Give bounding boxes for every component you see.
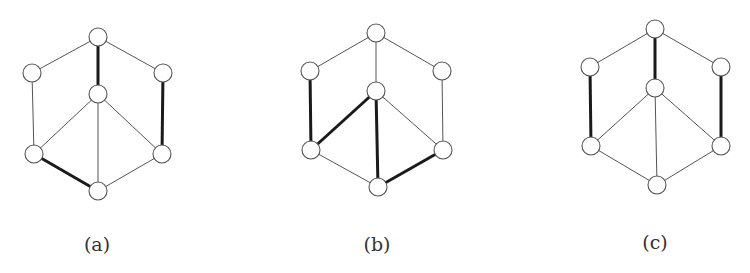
edge-lower-right-bottom — [98, 154, 162, 191]
edge-upper-left-lower-left-bold — [590, 67, 591, 146]
node-upper-right — [433, 62, 451, 80]
node-lower-right — [712, 137, 730, 155]
edge-center-lower-right — [376, 91, 443, 150]
panel-c — [581, 20, 730, 194]
node-center — [646, 79, 664, 97]
node-upper-left — [581, 58, 599, 76]
node-bottom — [89, 182, 107, 200]
caption-c: (c) — [642, 231, 667, 253]
edge-lower-right-bottom-bold — [378, 150, 443, 187]
edge-upper-right-lower-right — [442, 71, 443, 150]
edge-center-lower-left — [34, 94, 98, 154]
node-lower-left — [302, 141, 320, 159]
node-lower-right — [434, 141, 452, 159]
edge-center-lower-left — [591, 88, 655, 146]
node-upper-left — [23, 64, 41, 82]
edge-lower-left-bottom-bold — [34, 154, 98, 191]
node-center — [89, 85, 107, 103]
edge-center-lower-left-bold — [311, 91, 376, 150]
panel-a — [23, 28, 172, 200]
edge-top-upper-right — [98, 37, 163, 73]
node-top — [89, 28, 107, 46]
node-upper-right — [154, 64, 172, 82]
node-lower-left — [582, 137, 600, 155]
edge-upper-right-lower-right-bold — [162, 73, 163, 154]
edge-top-upper-right — [376, 33, 442, 71]
edge-center-bottom — [655, 88, 657, 185]
node-bottom — [369, 178, 387, 196]
edge-top-upper-left — [590, 29, 655, 67]
edge-lower-right-bottom — [657, 146, 721, 185]
edge-top-upper-left — [32, 37, 98, 73]
edge-lower-left-bottom — [311, 150, 378, 187]
caption-a: (a) — [84, 233, 110, 255]
node-upper-right — [712, 58, 730, 76]
caption-b: (b) — [364, 233, 391, 255]
panel-b — [301, 24, 452, 196]
node-top — [367, 24, 385, 42]
edge-lower-left-bottom — [591, 146, 657, 185]
node-center — [367, 82, 385, 100]
edge-center-lower-right — [98, 94, 162, 154]
edge-top-upper-left — [310, 33, 376, 71]
node-upper-left — [301, 62, 319, 80]
node-lower-left — [25, 145, 43, 163]
edge-top-upper-right — [655, 29, 721, 67]
edge-center-bottom-bold — [376, 91, 378, 187]
node-bottom — [648, 176, 666, 194]
node-top — [646, 20, 664, 38]
edge-upper-left-lower-left-bold — [310, 71, 311, 150]
edge-center-lower-right — [655, 88, 721, 146]
edge-upper-left-lower-left — [32, 73, 34, 154]
node-lower-right — [153, 145, 171, 163]
